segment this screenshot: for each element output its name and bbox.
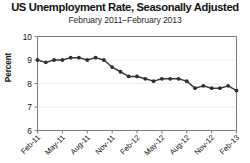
data-point <box>201 84 205 88</box>
data-point <box>36 58 40 62</box>
data-point <box>110 65 114 69</box>
data-point <box>44 60 48 64</box>
data-point <box>102 58 106 62</box>
data-point <box>52 58 56 62</box>
y-tick-label: 6 <box>27 126 32 136</box>
y-tick-label: 9 <box>27 55 32 65</box>
x-tick-label: Nov-12 <box>193 133 217 157</box>
data-point <box>69 56 73 60</box>
x-axis-ticks: Feb-11May-11Aug-11Nov-11Feb-12May-12Aug-… <box>19 131 241 158</box>
x-tick-label: May-12 <box>142 133 166 157</box>
data-point <box>218 86 222 90</box>
data-point <box>94 56 98 60</box>
x-tick-label: May-11 <box>43 133 67 157</box>
x-tick-label: Feb-12 <box>118 133 141 156</box>
data-point <box>135 75 139 79</box>
y-tick-label: 7 <box>27 102 32 112</box>
data-point <box>85 58 89 62</box>
data-point <box>210 86 214 90</box>
data-point <box>168 77 172 81</box>
data-point <box>127 75 131 79</box>
x-tick-label: Aug-11 <box>69 133 92 156</box>
data-point <box>160 77 164 81</box>
data-point <box>77 56 81 60</box>
data-point <box>193 86 197 90</box>
y-tick-label: 8 <box>27 79 32 89</box>
gridlines <box>38 60 237 107</box>
chart-container: US Unemployment Rate, Seasonally Adjuste… <box>0 0 250 163</box>
data-point <box>152 79 156 83</box>
data-point <box>143 77 147 81</box>
y-axis-ticks: 678910 <box>23 32 38 136</box>
y-tick-label: 10 <box>23 32 33 42</box>
chart-plot-area: 678910 Feb-11May-11Aug-11Nov-11Feb-12May… <box>0 0 250 163</box>
data-line-series-1 <box>38 58 237 91</box>
data-point <box>177 77 181 81</box>
data-point <box>226 84 230 88</box>
data-point <box>119 70 123 74</box>
x-tick-label: Aug-12 <box>168 133 192 157</box>
data-point <box>60 58 64 62</box>
data-point <box>185 79 189 83</box>
x-tick-label: Feb-11 <box>19 133 42 156</box>
x-tick-label: Feb-13 <box>218 133 241 156</box>
x-tick-label: Nov-11 <box>93 133 116 156</box>
data-point <box>235 89 239 93</box>
